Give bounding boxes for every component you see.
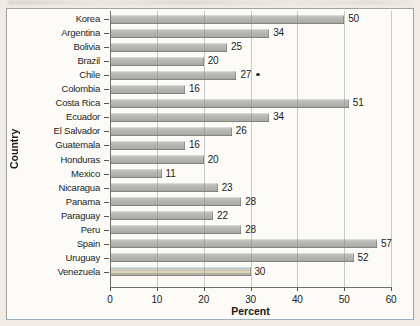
bar-peru <box>111 225 241 234</box>
bar-mexico <box>111 169 162 178</box>
y-tick-spain <box>104 244 109 245</box>
y-tick-colombia <box>104 89 109 90</box>
category-label-panama: Panama <box>7 196 100 207</box>
category-label-brazil: Brazil <box>7 55 100 66</box>
footnote-dot-chile <box>256 73 260 76</box>
y-tick-bolivia <box>104 47 109 48</box>
y-tick-el-salvador <box>104 131 109 132</box>
value-label-panama: 28 <box>245 196 256 207</box>
y-tick-guatemala <box>104 145 109 146</box>
x-axis-line <box>110 287 392 288</box>
value-label-costa-rica: 51 <box>353 97 364 108</box>
x-tick-label-50: 50 <box>333 294 355 305</box>
bar-chile <box>111 71 236 80</box>
category-label-colombia: Colombia <box>7 83 100 94</box>
value-label-honduras: 20 <box>208 154 219 165</box>
category-label-guatemala: Guatemala <box>7 139 100 150</box>
gridline-20 <box>204 11 205 287</box>
y-tick-uruguay <box>104 258 109 259</box>
category-label-bolivia: Bolivia <box>7 41 100 52</box>
y-tick-ecuador <box>104 117 109 118</box>
category-label-ecuador: Ecuador <box>7 111 100 122</box>
value-label-peru: 28 <box>245 224 256 235</box>
chart-figure-frame: Country Percent 0102030405060Korea50Arge… <box>6 8 414 320</box>
bar-korea <box>111 15 344 24</box>
value-label-korea: 50 <box>348 13 359 24</box>
category-label-paraguay: Paraguay <box>7 210 100 221</box>
value-label-bolivia: 25 <box>231 41 242 52</box>
value-label-paraguay: 22 <box>217 210 228 221</box>
y-tick-honduras <box>104 160 109 161</box>
y-axis-line <box>110 11 111 287</box>
value-label-chile: 27 <box>240 69 251 80</box>
y-tick-brazil <box>104 61 109 62</box>
y-tick-peru <box>104 230 109 231</box>
y-tick-costa-rica <box>104 103 109 104</box>
y-tick-nicaragua <box>104 188 109 189</box>
bar-guatemala <box>111 141 185 150</box>
y-tick-paraguay <box>104 216 109 217</box>
bar-argentina <box>111 29 269 38</box>
value-label-argentina: 34 <box>273 27 284 38</box>
category-label-argentina: Argentina <box>7 27 100 38</box>
gridline-50 <box>344 11 345 287</box>
value-label-colombia: 16 <box>189 83 200 94</box>
scan-artifact-top <box>8 0 412 5</box>
value-label-brazil: 20 <box>208 55 219 66</box>
y-tick-argentina <box>104 33 109 34</box>
category-label-venezuela: Venezuela <box>7 266 100 277</box>
bar-el-salvador <box>111 127 232 136</box>
x-axis-title: Percent <box>110 305 391 317</box>
value-label-venezuela: 30 <box>255 266 266 277</box>
category-label-spain: Spain <box>7 238 100 249</box>
bar-colombia <box>111 85 185 94</box>
category-label-mexico: Mexico <box>7 168 100 179</box>
category-label-peru: Peru <box>7 224 100 235</box>
bar-costa-rica <box>111 99 349 108</box>
gridline-10 <box>157 11 158 287</box>
y-tick-chile <box>104 75 109 76</box>
bar-ecuador <box>111 113 269 122</box>
category-label-costa-rica: Costa Rica <box>7 97 100 108</box>
x-tick-label-20: 20 <box>193 294 215 305</box>
category-label-korea: Korea <box>7 13 100 24</box>
category-label-chile: Chile <box>7 69 100 80</box>
category-label-uruguay: Uruguay <box>7 252 100 263</box>
bar-venezuela <box>111 267 251 276</box>
bar-panama <box>111 197 241 206</box>
x-tick-label-60: 60 <box>380 294 402 305</box>
y-tick-korea <box>104 19 109 20</box>
value-label-mexico: 11 <box>166 168 176 179</box>
category-label-el-salvador: El Salvador <box>7 125 100 136</box>
bar-nicaragua <box>111 183 218 192</box>
bar-uruguay <box>111 253 354 262</box>
value-label-nicaragua: 23 <box>222 182 233 193</box>
page-background: Country Percent 0102030405060Korea50Arge… <box>0 0 420 326</box>
x-tick-label-10: 10 <box>146 294 168 305</box>
gridline-30 <box>251 11 252 287</box>
value-label-uruguay: 52 <box>358 252 369 263</box>
y-tick-mexico <box>104 174 109 175</box>
x-tick-label-0: 0 <box>99 294 121 305</box>
gridline-40 <box>297 11 298 287</box>
value-label-guatemala: 16 <box>189 139 200 150</box>
y-tick-panama <box>104 202 109 203</box>
value-label-ecuador: 34 <box>273 111 284 122</box>
bar-spain <box>111 239 377 248</box>
category-label-nicaragua: Nicaragua <box>7 182 100 193</box>
bar-paraguay <box>111 211 213 220</box>
category-label-honduras: Honduras <box>7 154 100 165</box>
y-tick-venezuela <box>104 272 109 273</box>
bar-chart-plot-area: Country Percent 0102030405060Korea50Arge… <box>7 9 413 319</box>
value-label-el-salvador: 26 <box>236 125 247 136</box>
bar-bolivia <box>111 43 227 52</box>
x-tick-label-30: 30 <box>240 294 262 305</box>
value-label-spain: 57 <box>381 238 392 249</box>
x-tick-label-40: 40 <box>286 294 308 305</box>
